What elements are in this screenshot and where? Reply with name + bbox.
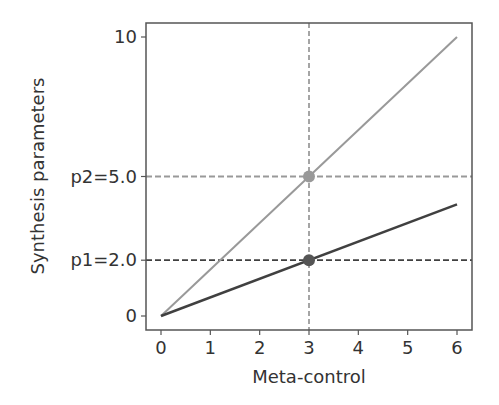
y-tick-label: 0: [126, 305, 137, 326]
y-tick-label: p2=5.0: [70, 166, 137, 187]
data-marker: [303, 171, 315, 183]
x-tick-label: 3: [303, 337, 314, 358]
x-tick-label: 1: [205, 337, 216, 358]
y-axis-label: Synthesis parameters: [27, 78, 48, 275]
x-axis-label: Meta-control: [252, 366, 366, 387]
x-tick-label: 6: [451, 337, 462, 358]
y-axis-ticks: 0p1=2.0p2=5.010: [70, 26, 146, 326]
y-tick-label: 10: [114, 26, 137, 47]
x-tick-label: 5: [402, 337, 413, 358]
x-axis-ticks: 0123456: [155, 330, 462, 358]
x-tick-label: 0: [155, 337, 166, 358]
chart: 0123456 0p1=2.0p2=5.010 Meta-control Syn…: [0, 0, 499, 405]
x-tick-label: 4: [353, 337, 364, 358]
x-tick-label: 2: [254, 337, 265, 358]
data-marker: [303, 254, 315, 266]
y-tick-label: p1=2.0: [70, 249, 137, 270]
plot-area: [146, 23, 472, 330]
